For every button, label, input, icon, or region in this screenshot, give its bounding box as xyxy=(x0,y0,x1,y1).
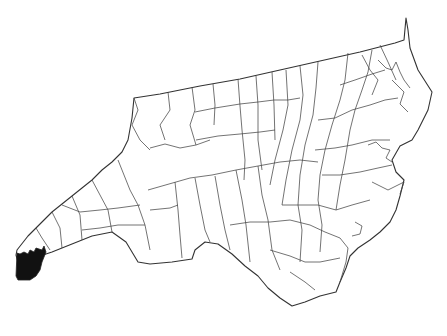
north-carolina-county-map xyxy=(0,0,447,336)
